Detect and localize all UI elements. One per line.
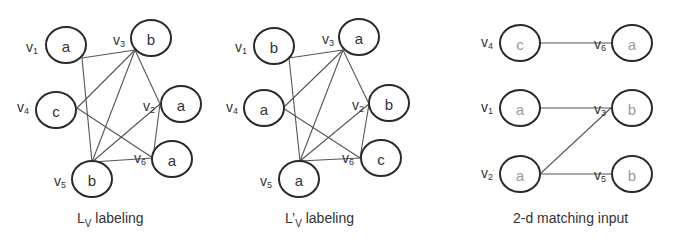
vertex-sub: 6: [141, 157, 146, 167]
vertex-name: v: [26, 39, 33, 55]
node-v4: c v4: [481, 25, 540, 61]
vertex-name: v: [322, 31, 329, 47]
diagram-canvas: a v1 b v3 c v4 a v2 a v6 b v5: [0, 0, 676, 245]
node-v6: c v6: [342, 140, 401, 176]
svg-text:v6: v6: [594, 36, 606, 53]
node-v3: a v3: [322, 19, 379, 55]
vertex-sub: 5: [61, 180, 66, 190]
svg-text:v3: v3: [594, 101, 606, 118]
vertex-name: v: [226, 99, 233, 115]
node-label: a: [516, 167, 525, 184]
edge-v3-v5: [300, 50, 343, 161]
node-label: a: [355, 30, 364, 47]
svg-text:v2: v2: [143, 98, 155, 115]
vertex-sub: 4: [233, 106, 238, 116]
graph-lv-prime-labeling: b v1 a v3 a v4 b v2 c v6 a v5: [226, 19, 409, 197]
vertex-name: v: [594, 101, 601, 117]
node-label: b: [270, 39, 278, 56]
svg-text:v1: v1: [26, 39, 38, 56]
caption-2d-matching-input: 2-d matching input: [513, 210, 628, 226]
node-v2: b v2: [352, 85, 409, 121]
node-label: b: [628, 167, 636, 184]
edge-v4-v3: [283, 50, 343, 108]
node-label: a: [628, 36, 637, 53]
vertex-sub: 4: [24, 106, 29, 116]
svg-text:v5: v5: [594, 167, 606, 184]
vertex-sub: 6: [601, 43, 606, 53]
vertex-name: v: [342, 150, 349, 166]
edge-v4-v3: [77, 50, 135, 108]
graph-2d-matching-input: c v4 a v1 a v2 a v6 b v3 b v5: [481, 25, 652, 192]
node-label: a: [168, 152, 177, 169]
caption-lv-prime-labeling: L’V labeling: [285, 210, 354, 229]
vertex-name: v: [481, 99, 488, 115]
node-label: b: [385, 96, 393, 113]
node-v5: b v5: [54, 161, 112, 197]
node-v1: b v1: [235, 28, 294, 64]
node-v2: a v2: [481, 156, 540, 192]
node-label: a: [516, 101, 525, 118]
vertex-sub: 1: [242, 46, 247, 56]
node-v1: a v1: [481, 90, 540, 126]
node-label: a: [177, 97, 186, 114]
node-label: c: [52, 103, 60, 120]
node-v2: a v2: [143, 86, 201, 122]
vertex-name: v: [594, 167, 601, 183]
svg-text:v2: v2: [352, 97, 364, 114]
node-label: a: [62, 38, 71, 55]
vertex-sub: 2: [359, 104, 364, 114]
edge-v1-v3: [289, 50, 343, 58]
node-v3: b v3: [113, 20, 171, 56]
vertex-sub: 5: [267, 180, 272, 190]
vertex-name: v: [143, 98, 150, 114]
edge-v3-v2: [135, 50, 160, 104]
edge-v1-v3: [82, 50, 135, 58]
node-v1: a v1: [26, 27, 86, 63]
vertex-name: v: [260, 173, 267, 189]
node-v5: b v5: [594, 156, 652, 192]
vertex-sub: 1: [33, 46, 38, 56]
vertex-name: v: [481, 34, 488, 50]
vertex-name: v: [481, 165, 488, 181]
node-v6: a v6: [594, 25, 652, 61]
node-v4: a v4: [226, 90, 284, 126]
vertex-sub: 2: [150, 105, 155, 115]
vertex-sub: 3: [329, 38, 334, 48]
vertex-name: v: [17, 99, 24, 115]
svg-text:v4: v4: [17, 99, 29, 116]
svg-text:v1: v1: [235, 39, 247, 56]
edge-v1-v5: [82, 58, 92, 162]
node-label: b: [628, 101, 636, 118]
vertex-sub: 1: [488, 106, 493, 116]
vertex-sub: 3: [120, 39, 125, 49]
vertex-sub: 6: [349, 157, 354, 167]
svg-text:v5: v5: [54, 173, 66, 190]
vertex-name: v: [352, 97, 359, 113]
node-label: b: [88, 172, 96, 189]
svg-text:v4: v4: [226, 99, 238, 116]
node-label: a: [260, 101, 269, 118]
node-v5: a v5: [260, 161, 319, 197]
svg-text:v2: v2: [481, 165, 493, 182]
vertex-sub: 2: [488, 172, 493, 182]
graph-lv-labeling: a v1 b v3 c v4 a v2 a v6 b v5: [17, 20, 201, 197]
svg-text:v1: v1: [481, 99, 493, 116]
svg-text:v5: v5: [260, 173, 272, 190]
node-v4: c v4: [17, 92, 76, 128]
vertex-name: v: [594, 36, 601, 52]
edge-v3-v5: [92, 50, 135, 162]
node-label: c: [377, 151, 385, 168]
node-v3: b v3: [594, 90, 652, 126]
svg-text:v3: v3: [113, 32, 125, 49]
node-v6: a v6: [134, 141, 192, 177]
vertex-sub: 4: [488, 41, 493, 51]
edge-v3-v2: [343, 50, 369, 104]
node-label: c: [516, 36, 524, 53]
caption-lv-labeling: LV labeling: [77, 210, 144, 229]
edge-v4-v6: [77, 108, 153, 158]
vertex-name: v: [113, 32, 120, 48]
vertex-name: v: [134, 150, 141, 166]
node-label: a: [295, 172, 304, 189]
vertex-name: v: [235, 39, 242, 55]
node-label: b: [147, 31, 155, 48]
